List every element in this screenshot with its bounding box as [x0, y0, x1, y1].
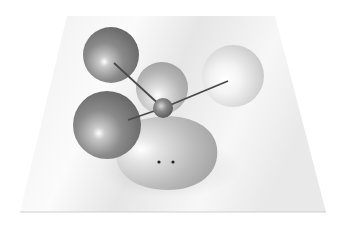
orbital-top-left	[83, 27, 139, 83]
orbital-left	[73, 91, 141, 159]
lone-pair-electron-dot	[157, 160, 160, 163]
molecule-diagram	[0, 0, 350, 233]
lone-pair-electron-dot	[171, 160, 174, 163]
orbital-right	[202, 45, 264, 107]
central-atom	[153, 98, 173, 118]
